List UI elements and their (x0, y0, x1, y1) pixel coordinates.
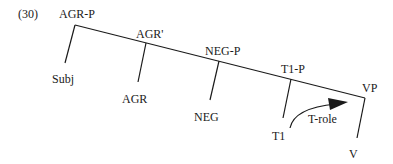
node-agr-p: AGR-P (59, 8, 95, 20)
leaf-v: V (349, 148, 358, 160)
leaf-subj: Subj (52, 73, 74, 85)
branch-v (357, 98, 365, 138)
branch-agr (138, 43, 146, 82)
example-number: (30) (18, 8, 38, 20)
branch-t1 (283, 79, 291, 118)
branch-subj (65, 25, 75, 63)
t-role-label: T-role (308, 113, 337, 125)
leaf-agr: AGR (122, 93, 147, 105)
leaf-t1: T1 (272, 130, 285, 142)
arrowhead-icon (328, 98, 348, 110)
spine-line (75, 25, 365, 98)
node-t1-p: T1-P (281, 63, 305, 75)
leaf-neg: NEG (194, 111, 219, 123)
node-vp: VP (362, 82, 377, 94)
branch-neg (210, 61, 219, 100)
node-neg-p: NEG-P (205, 45, 240, 57)
node-agr-bar: AGR' (136, 28, 164, 40)
